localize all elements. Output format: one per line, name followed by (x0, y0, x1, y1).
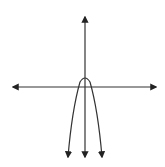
graph-figure (0, 0, 165, 167)
coordinate-plane (0, 0, 165, 167)
